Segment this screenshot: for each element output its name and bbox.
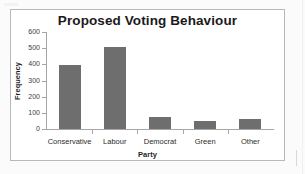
y-tick-label: 500 [11, 44, 40, 51]
y-tick-label: 400 [11, 60, 40, 67]
x-tick-mark [92, 130, 93, 134]
y-tick-mark [42, 48, 46, 49]
y-tick-label: 0 [11, 125, 40, 132]
page-artifact-top [4, 3, 18, 6]
x-tick-mark [137, 130, 138, 134]
page-background: Proposed Voting Behaviour Frequency 0100… [0, 0, 305, 174]
chart-title: Proposed Voting Behaviour [11, 13, 284, 28]
plot-area [47, 32, 273, 129]
x-tick-label: Green [183, 137, 228, 146]
x-tick-label: Labour [92, 137, 137, 146]
x-tick-mark [228, 130, 229, 134]
y-tick-mark [42, 129, 46, 130]
y-tick-label: 300 [11, 77, 40, 84]
y-tick-label: 200 [11, 93, 40, 100]
y-tick-label: 600 [11, 28, 40, 35]
page-edge-mark [296, 150, 297, 166]
page-edge-line [302, 0, 303, 174]
y-tick-mark [42, 97, 46, 98]
bar-other [239, 119, 261, 129]
chart-container: Proposed Voting Behaviour Frequency 0100… [10, 9, 285, 161]
bar-labour [104, 47, 126, 129]
bar-green [194, 121, 216, 129]
bar-democrat [149, 117, 171, 129]
x-tick-label: Other [228, 137, 273, 146]
y-tick-mark [42, 81, 46, 82]
y-tick-label: 100 [11, 109, 40, 116]
x-tick-label: Conservative [47, 137, 92, 146]
y-tick-mark [42, 64, 46, 65]
y-tick-mark [42, 32, 46, 33]
x-tick-label: Democrat [137, 137, 182, 146]
x-tick-mark [183, 130, 184, 134]
y-tick-mark [42, 113, 46, 114]
x-axis-title: Party [11, 150, 284, 159]
x-axis-line [46, 129, 274, 130]
bar-conservative [59, 65, 81, 129]
